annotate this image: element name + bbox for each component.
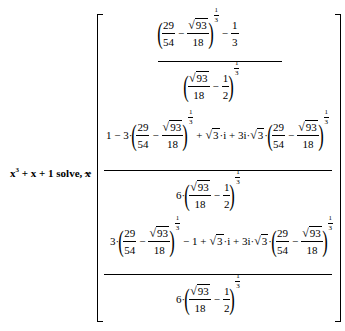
- exponent-one-third: 13: [234, 60, 239, 77]
- root-3-fraction-bar: [104, 274, 332, 275]
- root-1: ( 2954 − √9318 ) 13 − 13 ( √9318 − 12 ) …: [106, 16, 332, 114]
- root-2-denominator: 6· ( √9318 − 12 ) 13: [176, 180, 240, 210]
- root-2-fraction-bar: [104, 170, 332, 171]
- paren-right: ): [208, 18, 214, 48]
- lhs-rest: + x + 1: [22, 167, 54, 179]
- root-2: 1 − 3· ( 2954 − √9318 ) 13 + √3 ·i + 3i·…: [104, 116, 332, 216]
- root-1-denominator: ( √9318 − 12 ) 13: [184, 71, 239, 101]
- root-1-fraction-bar: [158, 61, 282, 62]
- fraction-sqrt93-18: √9318: [187, 19, 209, 48]
- lhs-power: 3: [16, 166, 20, 174]
- root-3-denominator: 6· ( √9318 − 12 ) 13: [176, 284, 240, 314]
- symbolic-arrow: →: [82, 164, 94, 179]
- root-2-numerator: 1 − 3· ( 2954 − √9318 ) 13 + √3 ·i + 3i·…: [106, 120, 329, 150]
- solve-expression[interactable]: x3 + x + 1 solve, x: [10, 166, 91, 179]
- matrix-right-bracket: [335, 14, 341, 322]
- root-3: 3· ( 2954 − √9318 ) 13 − 1 + √3 ·i + 3i·…: [104, 222, 332, 322]
- root-3-numerator: 3· ( 2954 − √9318 ) 13 − 1 + √3 ·i + 3i·…: [110, 226, 333, 256]
- exponent-one-third: 13: [214, 7, 219, 24]
- paren-left: (: [157, 18, 163, 48]
- root-1-numerator: ( 2954 − √9318 ) 13 − 13: [158, 18, 239, 48]
- fraction-1-3: 13: [231, 19, 239, 48]
- fraction-29-54: 2954: [162, 19, 175, 48]
- matrix-left-bracket: [97, 14, 103, 322]
